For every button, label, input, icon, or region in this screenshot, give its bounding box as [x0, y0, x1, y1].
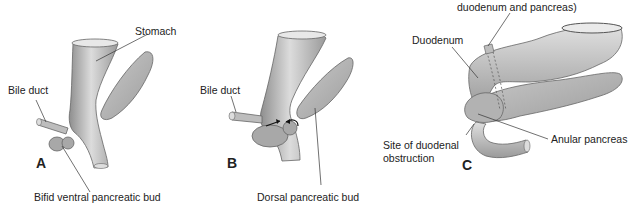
label-bifid-ventral-bud: Bifid ventral pancreatic bud	[34, 191, 161, 203]
label-anular-pancreas: Anular pancreas	[551, 133, 627, 145]
panel-b-illustration	[229, 31, 353, 185]
label-duodenum-pancreas-caption: duodenum and pancreas)	[457, 1, 577, 13]
panel-letter-a: A	[36, 155, 46, 171]
panel-letter-b: B	[227, 155, 237, 171]
bile-duct-a	[38, 119, 68, 134]
label-bile-duct-b: Bile duct	[200, 84, 240, 96]
panel-letter-c: C	[462, 157, 472, 173]
ventral-bud-b	[252, 125, 288, 147]
label-stomach: Stomach	[135, 25, 176, 37]
anatomy-illustrations	[0, 0, 633, 209]
label-site-obstruction-2: obstruction	[383, 152, 434, 164]
bile-duct-b	[232, 112, 262, 123]
lower-duodenum-c	[471, 122, 528, 158]
annular-ring-c	[465, 93, 504, 123]
panel-a-illustration	[36, 34, 153, 192]
label-duodenum: Duodenum	[412, 34, 463, 46]
bile-duct-c	[484, 44, 494, 54]
embryology-figure: Stomach Bile duct A Bifid ventral pancre…	[0, 0, 633, 209]
label-bile-duct-a: Bile duct	[8, 84, 48, 96]
label-site-obstruction-1: Site of duodenal	[383, 139, 459, 151]
label-dorsal-bud: Dorsal pancreatic bud	[257, 191, 359, 203]
